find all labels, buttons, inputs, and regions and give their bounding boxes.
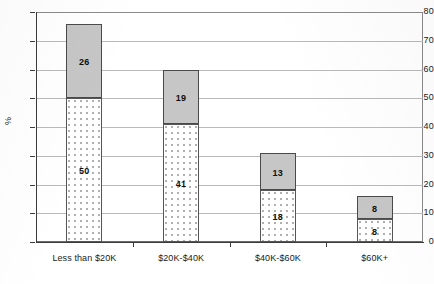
- y-tick-mark: [30, 98, 35, 99]
- bar-3[interactable]: 1813: [260, 12, 296, 242]
- bar-1[interactable]: 5026: [66, 12, 102, 242]
- y-tick-label: 20: [408, 180, 434, 189]
- y-tick-mark: [30, 185, 35, 186]
- bar-segment-upper[interactable]: 19: [163, 70, 199, 125]
- bar-segment-lower[interactable]: 8: [357, 219, 393, 242]
- bar-segment-lower[interactable]: 41: [163, 124, 199, 242]
- bar-segment-upper[interactable]: 8: [357, 196, 393, 219]
- y-tick-mark: [30, 70, 35, 71]
- bar-value-label-lower: 18: [261, 212, 295, 222]
- bar-value-label-lower: 50: [67, 166, 101, 176]
- stacked-bar-chart: 50264119181388 01020304050607080 % Less …: [0, 0, 434, 284]
- y-tick-mark: [30, 127, 35, 128]
- y-tick-mark: [30, 242, 35, 243]
- bar-value-label-upper: 13: [261, 168, 295, 178]
- plot-area: 50264119181388: [36, 12, 423, 242]
- y-tick-label: 40: [408, 122, 434, 131]
- y-tick-label: 0: [408, 237, 434, 246]
- x-tick-mark: [230, 243, 231, 247]
- x-tick-mark: [133, 243, 134, 247]
- y-tick-label: 30: [408, 151, 434, 160]
- bar-value-label-upper: 19: [164, 93, 198, 103]
- y-tick-mark: [30, 156, 35, 157]
- bar-value-label-lower: 8: [358, 227, 392, 237]
- bar-segment-upper[interactable]: 26: [66, 24, 102, 99]
- bar-value-label-upper: 26: [67, 57, 101, 67]
- y-axis-label: %: [3, 114, 13, 128]
- y-tick-mark: [30, 12, 35, 13]
- y-tick-label: 80: [408, 7, 434, 16]
- y-tick-label: 50: [408, 93, 434, 102]
- bar-2[interactable]: 4119: [163, 12, 199, 242]
- x-tick-label: $60K+: [315, 253, 434, 263]
- x-tick-mark: [326, 243, 327, 247]
- y-tick-label: 60: [408, 65, 434, 74]
- bar-value-label-upper: 8: [358, 204, 392, 214]
- bar-segment-lower[interactable]: 50: [66, 98, 102, 242]
- bar-4[interactable]: 88: [357, 12, 393, 242]
- y-tick-mark: [30, 213, 35, 214]
- bar-segment-upper[interactable]: 13: [260, 153, 296, 190]
- bar-segment-lower[interactable]: 18: [260, 190, 296, 242]
- y-tick-label: 70: [408, 36, 434, 45]
- bar-value-label-lower: 41: [164, 179, 198, 189]
- y-tick-mark: [30, 41, 35, 42]
- y-tick-label: 10: [408, 208, 434, 217]
- y-axis-line: [36, 12, 37, 243]
